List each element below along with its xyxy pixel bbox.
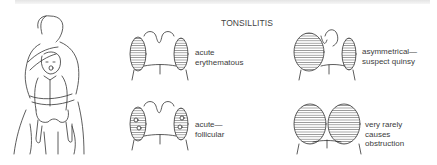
label-asymmetrical-suspect-quinsy: asymmetrical— suspect quinsy (362, 47, 417, 66)
adult-holding-child-illustration (10, 14, 90, 156)
tonsils-asymmetrical-illustration (293, 30, 363, 82)
tonsils-acute-follicular-illustration (128, 100, 192, 152)
tonsils-acute-erythematous-illustration (128, 30, 192, 82)
top-border (15, 0, 430, 4)
label-acute-follicular: acute— follicular (195, 120, 224, 139)
label-acute-erythematous: acute erythematous (195, 48, 243, 67)
diagram-title: TONSILLITIS (221, 18, 273, 28)
tonsils-obstruction-illustration (293, 102, 365, 156)
label-very-rarely-causes-obstruction: very rarely causes obstruction (365, 120, 404, 149)
